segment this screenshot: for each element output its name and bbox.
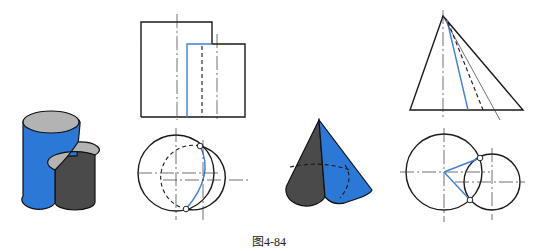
cylinder-pair-isometric	[22, 111, 100, 210]
cone-outline	[410, 16, 523, 110]
figure-caption: 图4-84	[0, 232, 538, 250]
cone-dark-half	[286, 120, 325, 206]
cone-cylinder-isometric	[286, 120, 372, 206]
construction-line	[443, 16, 500, 120]
intersection-point-bottom	[467, 197, 473, 203]
radial-line-upper	[444, 158, 480, 172]
figure-canvas	[0, 0, 538, 251]
intersection-point-bottom	[183, 206, 189, 212]
front-outline	[141, 22, 245, 117]
large-cylinder-top	[23, 111, 79, 133]
small-circle-visible	[186, 146, 225, 210]
cone-blue-half	[319, 120, 372, 204]
intersection-point-top	[477, 155, 483, 161]
cone-front-view	[410, 10, 523, 120]
intersection-point-top	[197, 143, 203, 149]
cylinder-pair-front-view	[141, 14, 245, 120]
cylinder-pair-top-view	[138, 128, 250, 220]
radial-line-lower	[444, 172, 470, 200]
intersection-line	[187, 44, 212, 117]
cone-top-view	[400, 128, 525, 222]
